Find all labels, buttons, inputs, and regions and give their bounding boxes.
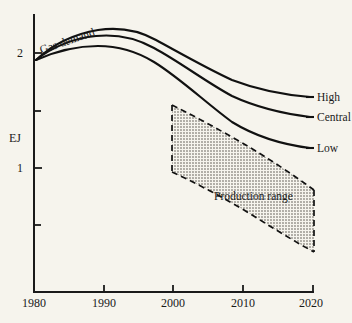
x-tick-label-2010: 2010: [231, 296, 255, 311]
y-axis-title: EJ: [9, 131, 21, 146]
y-tick-label-2: 2: [17, 46, 23, 61]
series-label-high: High: [317, 91, 340, 103]
figure-caption: [0, 314, 352, 323]
x-tick-label-2000: 2000: [161, 296, 185, 311]
series-label-low: Low: [317, 142, 338, 154]
x-tick-label-2020: 2020: [299, 296, 323, 311]
x-tick-label-1990: 1990: [92, 296, 116, 311]
y-tick-label-1: 1: [17, 161, 23, 176]
gas-demand-chart: 2 1 EJ 1980 1990 2000 2010 2020 Gas dema…: [0, 0, 352, 323]
series-label-central: Central: [317, 111, 351, 123]
series-leaders: [306, 97, 314, 148]
production-range-label: Production range: [214, 190, 293, 202]
x-tick-label-1980: 1980: [22, 296, 46, 311]
